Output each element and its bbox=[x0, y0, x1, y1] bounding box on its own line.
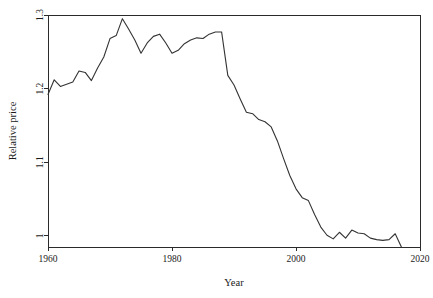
y-axis-tick-labels: 11.11.21.3 bbox=[35, 9, 45, 239]
x-tick-label: 2020 bbox=[411, 254, 430, 264]
plot-frame bbox=[48, 15, 420, 247]
y-tick-label: 1.2 bbox=[35, 82, 45, 94]
x-axis-title: Year bbox=[224, 277, 244, 288]
y-tick-label: 1 bbox=[35, 233, 45, 238]
y-axis-ticks bbox=[44, 15, 48, 236]
chart-container: 11.11.21.3 1960198020002020 Year Relativ… bbox=[0, 0, 433, 298]
y-tick-label: 1.1 bbox=[35, 156, 45, 168]
x-axis-tick-labels: 1960198020002020 bbox=[39, 254, 430, 264]
y-axis-title: Relative price bbox=[7, 101, 18, 160]
x-tick-label: 2000 bbox=[287, 254, 306, 264]
line-chart: 11.11.21.3 1960198020002020 Year Relativ… bbox=[0, 0, 433, 298]
data-series-line bbox=[48, 19, 401, 247]
x-axis-ticks bbox=[48, 247, 420, 251]
x-tick-label: 1960 bbox=[39, 254, 58, 264]
y-tick-label: 1.3 bbox=[35, 9, 45, 21]
x-tick-label: 1980 bbox=[163, 254, 182, 264]
